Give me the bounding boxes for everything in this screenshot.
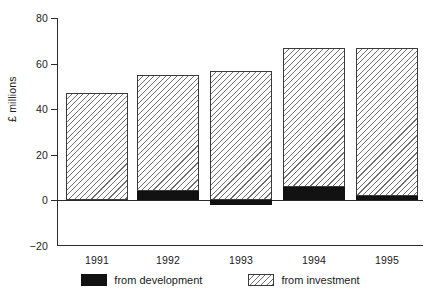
- bar-segment-investment-1993: [210, 71, 272, 201]
- bar-segment-investment-1991: [66, 93, 128, 200]
- y-tick-label-0: 0: [42, 194, 48, 206]
- bar-segment-investment-1995: [356, 48, 418, 196]
- y-axis-title: £ millions: [6, 76, 18, 122]
- bar-group-1993: [210, 18, 272, 246]
- bar-segment-development-1993: [210, 200, 272, 205]
- chart-container: £ millions 80 60 40 20 0 −20: [0, 0, 441, 300]
- y-tick-label-20: 20: [36, 149, 48, 161]
- bar-segment-investment-1994: [283, 48, 345, 187]
- legend-item-development: from development: [81, 274, 202, 286]
- x-axis-label-1995: 1995: [375, 254, 399, 266]
- hatched-swatch-icon: [248, 274, 274, 286]
- x-axis-label-1993: 1993: [229, 254, 253, 266]
- legend-label-investment: from investment: [281, 275, 359, 286]
- solid-black-swatch-icon: [81, 274, 107, 286]
- chart-legend: from development from investment: [0, 274, 441, 286]
- legend-item-investment: from investment: [248, 274, 359, 286]
- bar-segment-development-1994: [283, 187, 345, 201]
- y-tick-label-80: 80: [36, 12, 48, 24]
- x-axis-label-1991: 1991: [85, 254, 109, 266]
- bar-segment-development-1992: [137, 191, 199, 200]
- bar-group-1994: [283, 18, 345, 246]
- bar-group-1992: [137, 18, 199, 246]
- legend-label-development: from development: [114, 275, 202, 286]
- bar-group-1991: [66, 18, 128, 246]
- y-tick-label-40: 40: [36, 103, 48, 115]
- y-tick-label-60: 60: [36, 58, 48, 70]
- plot-area: 80 60 40 20 0 −20: [57, 18, 423, 246]
- bar-group-1995: [356, 18, 418, 246]
- bar-segment-development-1995: [356, 196, 418, 201]
- x-axis-label-1992: 1992: [156, 254, 180, 266]
- y-tick-label-neg20: −20: [30, 240, 48, 252]
- x-axis-label-1994: 1994: [302, 254, 326, 266]
- bar-segment-investment-1992: [137, 75, 199, 191]
